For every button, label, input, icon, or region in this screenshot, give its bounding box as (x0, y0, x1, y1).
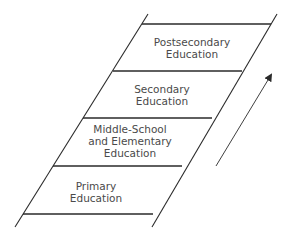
education-ladder-diagram (0, 0, 288, 240)
arrow-up-right-icon (216, 75, 271, 166)
rung-label-primary: Primary Education (70, 180, 122, 204)
rung-label-secondary: Secondary Education (134, 83, 190, 107)
rung-label-middle-elementary: Middle-School and Elementary Education (88, 123, 172, 159)
rung-label-postsecondary: Postsecondary Education (154, 36, 230, 60)
